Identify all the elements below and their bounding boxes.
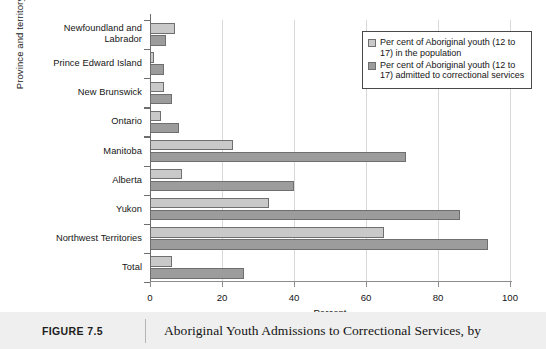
- y-axis-tick: [144, 166, 150, 167]
- y-axis-category-label: Total: [30, 262, 142, 273]
- y-axis-category-labels: Newfoundland and LabradorPrince Edward I…: [30, 20, 142, 282]
- x-axis-tick-label: 100: [502, 292, 518, 303]
- x-axis-tick-label: 40: [289, 292, 300, 303]
- y-axis-category-label: Prince Edward Island: [30, 58, 142, 69]
- y-axis-tick: [144, 282, 150, 283]
- bar: [150, 152, 406, 163]
- bar: [150, 140, 233, 151]
- x-axis-tick-label: 0: [147, 292, 152, 303]
- legend-entry-population: Per cent of Aboriginal youth (12 to 17) …: [368, 37, 526, 59]
- legend-swatch-icon: [368, 62, 376, 70]
- y-axis-category-label: Manitoba: [30, 146, 142, 157]
- legend-entry-label: Per cent of Aboriginal youth (12 to 17) …: [380, 60, 526, 82]
- figure-title: Aboriginal Youth Admissions to Correctio…: [146, 323, 481, 339]
- bar: [150, 227, 384, 238]
- bar: [150, 181, 294, 192]
- y-axis-line: [150, 14, 151, 282]
- legend-entry-label: Per cent of Aboriginal youth (12 to 17) …: [380, 37, 526, 59]
- bar: [150, 23, 175, 34]
- y-axis-category-label: New Brunswick: [30, 87, 142, 98]
- x-axis-tick: [510, 282, 511, 287]
- x-axis-tick-label: 60: [361, 292, 372, 303]
- y-axis-tick: [144, 20, 150, 21]
- y-axis-category-label: Yukon: [30, 204, 142, 215]
- bar-chart: Province and territory Newfoundland and …: [0, 0, 546, 310]
- bar: [150, 169, 182, 180]
- y-axis-tick: [144, 49, 150, 50]
- bar: [150, 198, 269, 209]
- y-axis-category-label: Ontario: [30, 116, 142, 127]
- bar: [150, 64, 164, 75]
- legend-swatch-icon: [368, 39, 376, 47]
- chart-legend: Per cent of Aboriginal youth (12 to 17) …: [362, 31, 532, 89]
- figure-number: FIGURE 7.5: [0, 325, 145, 337]
- bar: [150, 256, 172, 267]
- bar: [150, 94, 172, 105]
- x-axis-tick: [222, 282, 223, 287]
- figure-caption: FIGURE 7.5 Aboriginal Youth Admissions t…: [0, 312, 546, 349]
- x-axis-tick: [294, 282, 295, 287]
- y-axis-tick: [144, 107, 150, 108]
- x-axis-tick-label: 20: [217, 292, 228, 303]
- x-axis-tick: [438, 282, 439, 287]
- bar: [150, 239, 488, 250]
- y-axis-category-label: Alberta: [30, 175, 142, 186]
- x-axis-tick-label: 80: [433, 292, 444, 303]
- figure-container: Province and territory Newfoundland and …: [0, 0, 546, 349]
- y-axis-category-label: Newfoundland and Labrador: [30, 23, 142, 46]
- bar: [150, 268, 244, 279]
- y-axis-tick: [144, 78, 150, 79]
- y-axis-tick: [144, 253, 150, 254]
- bar: [150, 210, 460, 221]
- y-axis-tick: [144, 136, 150, 137]
- x-axis-line: [150, 281, 512, 283]
- bar: [150, 35, 166, 46]
- legend-entry-admissions: Per cent of Aboriginal youth (12 to 17) …: [368, 60, 526, 82]
- bar: [150, 111, 161, 122]
- y-axis-tick: [144, 224, 150, 225]
- bar: [150, 82, 164, 93]
- x-axis-tick: [366, 282, 367, 287]
- bar: [150, 123, 179, 134]
- x-axis-tick: [150, 282, 151, 287]
- y-axis-category-label: Northwest Territories: [30, 233, 142, 244]
- y-axis-tick: [144, 195, 150, 196]
